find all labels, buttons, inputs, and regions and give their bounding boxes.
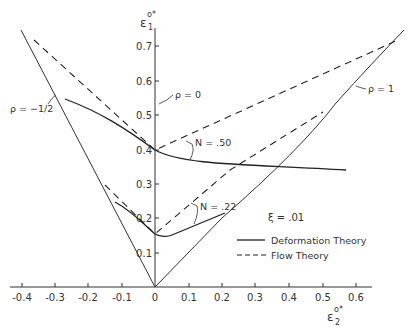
legend-deformation-label: Deformation Theory [271, 235, 367, 246]
x-tick-label: 0.4 [281, 292, 297, 303]
x-tick-labels: -0.4 -0.3 -0.2 -0.1 0 0.1 0.2 0.3 0.4 0.… [12, 292, 364, 303]
rho-one-line [155, 30, 404, 287]
rho-one-leader [356, 86, 366, 89]
svg-text:2: 2 [335, 318, 340, 327]
x-tick-label: -0.3 [45, 292, 65, 303]
n-022-leader [191, 203, 198, 224]
svg-text:o*: o* [334, 305, 343, 314]
rho-neg-half-label: ρ = −1/2 [10, 103, 53, 114]
rho-one-label: ρ = 1 [368, 83, 394, 94]
x-tick-label: -0.2 [78, 292, 98, 303]
y-tick-label: 0.3 [136, 179, 152, 190]
x-tick-label: -0.4 [12, 292, 32, 303]
y-tick-label: 0.5 [136, 110, 152, 121]
svg-text:ε: ε [140, 16, 147, 30]
y-ticks [155, 46, 159, 253]
svg-text:1: 1 [148, 23, 153, 32]
deformation-theory-n50-curve [65, 99, 346, 170]
xi-label: ξ = .01 [268, 212, 304, 223]
y-axis-title: ε 1 o* [140, 10, 156, 32]
x-tick-label: 0 [152, 292, 158, 303]
svg-text:ε: ε [327, 310, 334, 324]
rho-zero-leader [159, 95, 173, 104]
y-tick-label: 0.1 [136, 248, 152, 259]
y-tick-labels: 0.1 0.2 0.3 0.4 0.5 0.6 0.7 [136, 41, 152, 259]
y-tick-label: 0.7 [136, 41, 152, 52]
x-axis-title: ε 2 o* [327, 305, 343, 327]
x-tick-label: 0.6 [348, 292, 364, 303]
n-050-label: N = .50 [195, 137, 231, 148]
x-ticks [22, 283, 356, 287]
y-tick-label: 0.6 [136, 76, 152, 87]
legend-flow-label: Flow Theory [271, 250, 329, 261]
svg-text:o*: o* [147, 10, 156, 19]
n-022-label: N = .22 [200, 201, 236, 212]
x-tick-label: 0.1 [181, 292, 197, 303]
legend: Deformation Theory Flow Theory [237, 235, 367, 261]
x-tick-label: 0.2 [214, 292, 230, 303]
x-tick-label: -0.1 [112, 292, 132, 303]
x-tick-label: 0.5 [315, 292, 331, 303]
forming-limit-chart: -0.4 -0.3 -0.2 -0.1 0 0.1 0.2 0.3 0.4 0.… [0, 0, 411, 330]
x-tick-label: 0.3 [247, 292, 263, 303]
rho-neg-half-line [21, 30, 155, 287]
rho-zero-label: ρ = 0 [175, 89, 201, 100]
n-050-leader [186, 141, 193, 160]
